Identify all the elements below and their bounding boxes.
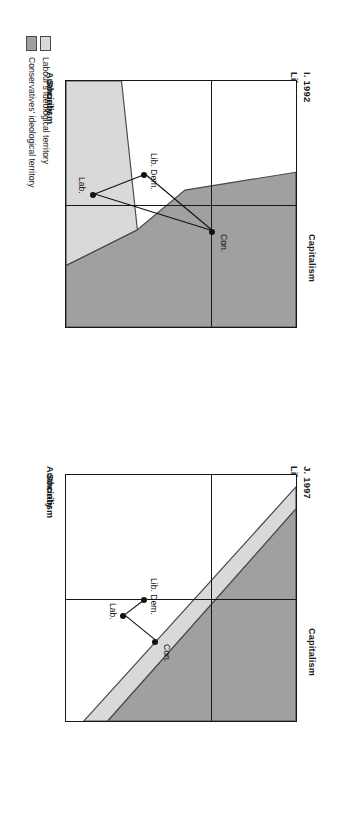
legend-swatch-conservatives bbox=[26, 36, 37, 51]
data-point-con-1997[interactable] bbox=[152, 639, 158, 645]
data-point-lab-1997[interactable] bbox=[120, 613, 126, 619]
shaded-regions-1997 bbox=[66, 475, 296, 721]
panel-1992-title: I. 1992 bbox=[302, 72, 313, 102]
legend-label-conservatives: Conservatives' ideological territory bbox=[27, 57, 36, 188]
legend-item-conservatives: Conservatives' ideological territory bbox=[26, 36, 37, 188]
legend-item-labour: Labour's ideological territory bbox=[40, 36, 51, 188]
shaded-regions-1992 bbox=[66, 81, 296, 327]
legend-swatch-labour bbox=[40, 36, 51, 51]
axis-caption-capitalism-1997: Capitalism bbox=[307, 628, 317, 676]
data-label-con-1997: Con. bbox=[162, 644, 171, 662]
data-point-lab-1992[interactable] bbox=[90, 192, 96, 198]
horizontal-axis-1997 bbox=[211, 475, 212, 721]
data-label-lib-dem-1997: Lib. Dem. bbox=[149, 578, 158, 615]
data-point-con-1992[interactable] bbox=[209, 229, 215, 235]
data-point-lib-dem-1992[interactable] bbox=[141, 172, 147, 178]
data-label-lab-1992: Lab. bbox=[77, 177, 86, 194]
vertical-axis-1992 bbox=[66, 205, 296, 206]
legend-label-labour: Labour's ideological territory bbox=[41, 57, 50, 164]
legend: Labour's ideological territory Conservat… bbox=[26, 36, 51, 188]
panel-1997: J. 1997 Liberty Authority Socialism Capi… bbox=[0, 412, 347, 792]
data-label-lab-1997: Lab. bbox=[108, 603, 117, 620]
data-label-lib-dem-1992: Lib. Dem. bbox=[149, 153, 158, 190]
vertical-axis-1997 bbox=[66, 599, 296, 600]
data-label-con-1992: Con. bbox=[219, 234, 228, 252]
panel-1997-title: J. 1997 bbox=[302, 466, 313, 499]
horizontal-axis-1992 bbox=[211, 81, 212, 327]
figure-container: I. 1992 Liberty Authority Socialism Capi… bbox=[0, 0, 347, 813]
data-point-lib-dem-1997[interactable] bbox=[141, 597, 147, 603]
plot-area-1992: Lib. Dem. Lab. Con. bbox=[65, 80, 297, 328]
panel-1992: I. 1992 Liberty Authority Socialism Capi… bbox=[0, 18, 347, 398]
plot-area-1997: Lib. Dem. Lab. Con. bbox=[65, 474, 297, 722]
axis-caption-socialism-1997: Socialism bbox=[45, 474, 55, 518]
axis-caption-capitalism-1992: Capitalism bbox=[307, 234, 317, 282]
